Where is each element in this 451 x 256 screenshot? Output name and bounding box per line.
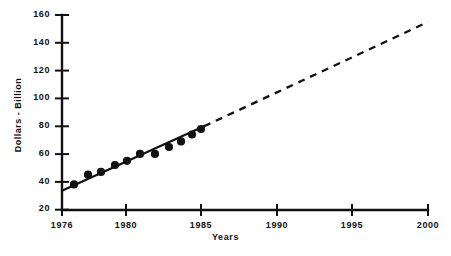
data-point bbox=[97, 168, 105, 176]
fitted-trend-line bbox=[63, 126, 204, 190]
data-point bbox=[151, 150, 159, 158]
x-tick-label-1976: 1976 bbox=[32, 220, 92, 230]
plot-area bbox=[0, 0, 451, 256]
data-point bbox=[165, 143, 173, 151]
x-tick-label-1980: 1980 bbox=[96, 220, 156, 230]
data-point bbox=[70, 180, 78, 188]
y-tick-label-140: 140 bbox=[8, 37, 50, 47]
data-point bbox=[84, 171, 92, 179]
data-point bbox=[136, 150, 144, 158]
data-point bbox=[188, 130, 196, 138]
x-tick-label-1990: 1990 bbox=[247, 220, 307, 230]
x-axis-title: Years bbox=[0, 232, 451, 242]
chart-figure: 160 140 120 100 80 60 40 20 1976 1980 19… bbox=[0, 0, 451, 256]
x-tick-label-1995: 1995 bbox=[322, 220, 382, 230]
x-tick-label-2000: 2000 bbox=[398, 220, 451, 230]
y-tick-label-20: 20 bbox=[8, 203, 50, 213]
y-tick-label-160: 160 bbox=[8, 9, 50, 19]
x-tick-label-1985: 1985 bbox=[171, 220, 231, 230]
data-point bbox=[197, 125, 205, 133]
projected-trend-line bbox=[204, 22, 428, 126]
data-point bbox=[111, 161, 119, 169]
data-point bbox=[123, 157, 131, 165]
y-axis-title: Dollars - Billion bbox=[13, 55, 23, 175]
y-tick-label-40: 40 bbox=[8, 176, 50, 186]
data-point bbox=[177, 137, 185, 145]
